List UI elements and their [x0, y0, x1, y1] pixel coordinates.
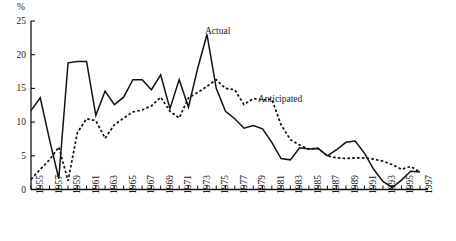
series-lines — [31, 34, 420, 187]
series-label-actual: Actual — [205, 26, 230, 37]
series-line-actual — [31, 34, 420, 187]
series-label-anticipated: Anticipated — [258, 94, 302, 105]
chart-figure: % 0510152025 195519571959196119631965196… — [0, 0, 456, 241]
axis-lines — [31, 21, 428, 190]
series-line-anticipated — [31, 80, 420, 181]
